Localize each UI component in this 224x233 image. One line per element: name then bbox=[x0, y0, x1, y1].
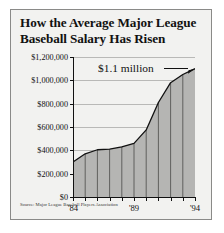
x-axis-tick bbox=[97, 197, 98, 201]
x-axis-tick bbox=[158, 197, 159, 201]
y-axis-tick bbox=[70, 80, 73, 81]
x-axis-tick bbox=[183, 197, 184, 201]
chart-title-line-1: How the Average Major League bbox=[20, 15, 206, 31]
y-axis-label: $600,000 bbox=[37, 123, 68, 132]
annotation-label: $1.1 million bbox=[98, 62, 154, 74]
y-axis-tick bbox=[70, 57, 73, 58]
chart-title: How the Average Major League Baseball Sa… bbox=[20, 15, 206, 46]
y-axis-label: $200,000 bbox=[37, 169, 68, 178]
annotation-leader-line bbox=[164, 68, 188, 69]
plot-area: $0$200,000$400,000$600,000$800,000$1,000… bbox=[73, 57, 195, 197]
x-axis-tick bbox=[195, 197, 196, 201]
y-axis bbox=[73, 57, 74, 198]
x-axis-tick bbox=[171, 197, 172, 201]
x-axis-tick bbox=[73, 197, 74, 201]
series-canvas bbox=[73, 57, 195, 198]
x-axis-tick bbox=[85, 197, 86, 201]
x-axis-tick bbox=[122, 197, 123, 201]
y-axis-tick bbox=[70, 150, 73, 151]
y-axis-tick bbox=[70, 174, 73, 175]
chart-figure: How the Average Major League Baseball Sa… bbox=[10, 9, 212, 220]
y-axis-tick bbox=[70, 127, 73, 128]
x-axis-label: '94 bbox=[190, 203, 200, 213]
x-axis-label: '89 bbox=[129, 203, 139, 213]
y-axis-label: $1,000,000 bbox=[31, 76, 68, 85]
x-axis-tick bbox=[134, 197, 135, 201]
salary-area-series bbox=[73, 57, 195, 198]
y-axis-label: $0 bbox=[60, 193, 68, 202]
y-axis-label: $1,200,000 bbox=[31, 53, 68, 62]
x-axis-tick bbox=[146, 197, 147, 201]
y-axis-label: $800,000 bbox=[37, 99, 68, 108]
source-credit: Source: Major League Baseball Players As… bbox=[20, 202, 118, 207]
y-axis-tick bbox=[70, 104, 73, 105]
y-axis-label: $400,000 bbox=[37, 146, 68, 155]
x-axis-tick bbox=[110, 197, 111, 201]
chart-title-line-2: Baseball Salary Has Risen bbox=[20, 31, 206, 47]
